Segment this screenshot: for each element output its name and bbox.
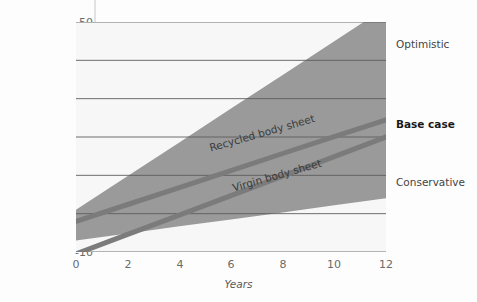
x-axis-title: Years <box>0 278 477 290</box>
chart-figure: Net CO2-equivalent savings 50 40 30 20 1… <box>0 0 477 302</box>
x-tick-0: 0 <box>56 258 96 271</box>
x-tick-6: 6 <box>211 258 251 271</box>
x-tick-8: 8 <box>263 258 303 271</box>
label-base-case: Base case <box>396 118 455 130</box>
x-tick-2: 2 <box>108 258 148 271</box>
label-optimistic: Optimistic <box>396 38 449 50</box>
x-tick-4: 4 <box>160 258 200 271</box>
x-tick-10: 10 <box>314 258 354 271</box>
label-conservative: Conservative <box>396 176 465 188</box>
plot-area: Recycled body sheet Virgin body sheet <box>76 22 386 252</box>
x-tick-12: 12 <box>366 258 406 271</box>
